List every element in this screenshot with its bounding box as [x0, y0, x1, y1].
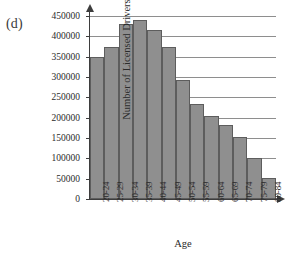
x-axis-title: Age — [90, 238, 276, 249]
x-axis-tick-label: 55-59 — [201, 182, 211, 203]
x-axis-tick-label: 30-34 — [130, 182, 140, 203]
x-axis-tick-label: 50-54 — [187, 182, 197, 203]
x-axis-tick-label: 60-64 — [216, 182, 226, 203]
x-axis-tick-label: 70-74 — [244, 182, 254, 203]
x-axis-tick-label: 80-84 — [273, 182, 283, 203]
bar — [162, 47, 176, 200]
bar-chart: 0500001000001500002000002500003000003500… — [0, 0, 297, 255]
x-axis-tick-label: 35-39 — [144, 182, 154, 203]
gridline — [90, 16, 276, 17]
y-axis-tick-label: 200000 — [52, 113, 81, 123]
bar — [133, 20, 147, 199]
y-axis-arrow-icon — [86, 4, 94, 12]
y-axis-tick-label: 400000 — [52, 31, 81, 41]
bar — [104, 47, 118, 200]
x-axis-tick-label: 65-69 — [230, 182, 240, 203]
x-axis-tick-label: 25-29 — [115, 182, 125, 203]
bar — [90, 57, 104, 199]
y-axis-tick-label: 100000 — [52, 153, 81, 163]
y-axis-title: Number of Licensed Drivers — [121, 0, 132, 140]
x-axis-tick-label: 20-24 — [101, 182, 111, 203]
y-axis-tick-label: 0 — [75, 194, 80, 204]
y-axis-tick-label: 150000 — [52, 133, 81, 143]
x-axis-tick-label: 40-44 — [158, 182, 168, 203]
y-axis-tick-label: 300000 — [52, 72, 81, 82]
x-axis-tick-label: 45-49 — [173, 182, 183, 203]
bar — [147, 30, 161, 199]
y-axis-tick-label: 450000 — [52, 11, 81, 21]
y-axis-tick-labels: 0500001000001500002000002500003000003500… — [0, 0, 86, 255]
x-axis-tick-label: 75-79 — [259, 182, 269, 203]
plot-area: Number of Licensed Drivers — [90, 16, 276, 199]
y-axis-tick-mark — [86, 199, 90, 200]
y-axis-tick-label: 250000 — [52, 92, 81, 102]
y-axis-tick-label: 50000 — [56, 174, 80, 184]
y-axis-tick-label: 350000 — [52, 52, 81, 62]
